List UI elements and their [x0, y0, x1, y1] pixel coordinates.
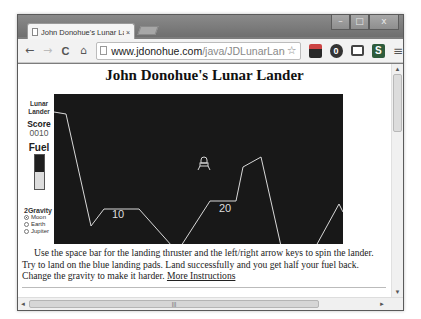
gravity-option-label: Jupiter	[31, 228, 49, 235]
game-canvas[interactable]: 10 20	[54, 94, 343, 244]
more-instructions-link[interactable]: More Instructions	[167, 270, 235, 281]
page-info-icon[interactable]	[100, 46, 107, 55]
horizontal-scroll-thumb[interactable]: |||	[29, 300, 319, 308]
divider	[22, 287, 386, 288]
game-label: Lunar	[24, 100, 54, 108]
circle-extension-icon[interactable]: 0	[330, 44, 343, 58]
page-viewport: John Donohue's Lunar Lander Lunar Lander…	[18, 64, 391, 297]
fuel-gauge-empty	[35, 155, 44, 172]
browser-tab[interactable]: John Donohue's Lunar Lar ×	[27, 23, 135, 40]
radio-moon[interactable]	[24, 215, 29, 220]
fuel-gauge	[34, 154, 45, 190]
url-host: www.jdonohue.com	[111, 45, 202, 57]
menu-icon[interactable]: ≡	[393, 44, 403, 58]
game-label-line2: Lander	[24, 108, 54, 116]
radio-earth[interactable]	[24, 222, 29, 227]
landscape-extension-icon[interactable]	[309, 44, 322, 58]
gravity-option-moon[interactable]: Moon	[24, 214, 52, 221]
page-icon	[32, 28, 38, 36]
bookmark-star-icon[interactable]: ☆	[287, 44, 297, 57]
tab-close-icon[interactable]: ×	[126, 29, 130, 36]
address-bar[interactable]: www.jdonohue.com /java/JDLunarLander/JDL…	[96, 42, 300, 60]
home-button[interactable]: ⌂	[77, 44, 90, 58]
window-controls: – □ x	[331, 15, 399, 31]
score-value: 0010	[24, 129, 54, 138]
fuel-label: Fuel	[24, 142, 54, 153]
title-bar: John Donohue's Lunar Lar × – □ x	[18, 15, 403, 37]
forward-button[interactable]: →	[41, 44, 54, 58]
reload-button[interactable]: C	[59, 44, 72, 58]
url-path: /java/JDLunarLander/JDLt	[202, 45, 284, 57]
gravity-label: 2Gravity	[24, 207, 52, 214]
scroll-right-icon[interactable]: ►	[377, 298, 387, 310]
gravity-option-label: Earth	[31, 221, 45, 228]
gravity-option-earth[interactable]: Earth	[24, 221, 52, 228]
lander-icon	[198, 157, 210, 170]
new-tab-button[interactable]	[137, 26, 158, 35]
browser-window: John Donohue's Lunar Lar × – □ x ← → C ⌂…	[17, 14, 404, 311]
gravity-selector: 2Gravity Moon Earth Jupiter	[24, 207, 52, 235]
scroll-down-icon[interactable]: ▼	[392, 287, 403, 297]
instructions-paragraph: Use the space bar for the landing thrust…	[22, 247, 388, 282]
horizontal-scrollbar[interactable]: ◄ ||| ►	[18, 297, 403, 310]
page-title: John Donohue's Lunar Lander	[18, 67, 391, 84]
landing-pad-label: 10	[112, 208, 124, 220]
gravity-option-label: Moon	[31, 214, 46, 221]
s-extension-icon[interactable]: S	[372, 44, 385, 58]
cast-icon[interactable]	[351, 45, 364, 56]
gravity-option-jupiter[interactable]: Jupiter	[24, 228, 52, 235]
tab-title: John Donohue's Lunar Lar	[41, 28, 124, 37]
game-sidebar: Lunar Lander Score 0010 Fuel	[24, 100, 54, 190]
minimize-button[interactable]: –	[331, 15, 350, 30]
browser-toolbar: ← → C ⌂ www.jdonohue.com /java/JDLunarLa…	[18, 39, 403, 63]
scroll-up-icon[interactable]: ▲	[392, 64, 403, 74]
close-button[interactable]: x	[369, 15, 399, 30]
back-button[interactable]: ←	[23, 44, 36, 58]
landing-pad-label: 20	[219, 202, 231, 214]
vertical-scroll-thumb[interactable]	[393, 74, 402, 132]
radio-jupiter[interactable]	[24, 229, 29, 234]
maximize-button[interactable]: □	[350, 15, 369, 30]
terrain-graphic	[54, 94, 343, 244]
vertical-scrollbar[interactable]: ▲ ▼	[391, 64, 403, 297]
scroll-left-icon[interactable]: ◄	[18, 298, 28, 310]
